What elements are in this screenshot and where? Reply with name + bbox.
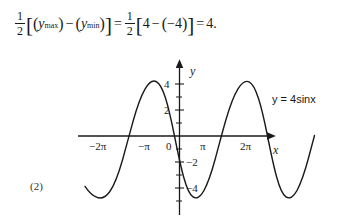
y-tick-label-minus-4: −4 — [186, 182, 198, 194]
fraction-one-half-first: 1 2 — [15, 10, 25, 37]
amplitude-equation: 1 2 [ ( ymax ) − ( ymin ) ] = 1 2 [ 4 − … — [14, 10, 217, 37]
subscript-max: max — [45, 22, 59, 30]
fraction-denominator-2: 2 — [125, 24, 135, 37]
fraction-numerator: 1 — [15, 10, 25, 24]
curve-equation-label: y = 4sinx — [272, 93, 316, 105]
fraction-one-half-second: 1 2 — [125, 10, 135, 37]
x-axis-label: x — [273, 143, 278, 158]
y-tick-label-2: 2 — [164, 104, 170, 116]
y-axis-label: y — [190, 64, 195, 79]
minus-operator-2: − — [152, 17, 160, 31]
value-min: −4 — [167, 17, 182, 31]
paren-open-min: ( — [76, 16, 81, 32]
x-tick-label-pi: π — [200, 140, 206, 152]
equals-sign-first: = — [114, 17, 122, 31]
equals-sign-second: = — [196, 17, 204, 31]
equation-result: 4. — [206, 17, 217, 31]
step-number-label: (2) — [30, 180, 43, 192]
x-tick-label-minus-pi: −π — [138, 140, 150, 152]
x-tick-label-zero: 0 — [166, 140, 172, 152]
x-tick-label-minus-2pi: −2π — [89, 140, 106, 152]
paren-open-max: ( — [33, 16, 38, 32]
figure-page: 1 2 [ ( ymax ) − ( ymin ) ] = 1 2 [ 4 − … — [0, 0, 343, 223]
y-tick-label-4: 4 — [164, 78, 170, 90]
sine-graph-svg — [0, 55, 343, 223]
paren-close-max: ) — [58, 16, 63, 32]
x-tick-label-2pi: 2π — [240, 140, 251, 152]
fraction-denominator: 2 — [15, 24, 25, 37]
value-max: 4 — [143, 17, 150, 31]
paren-open-value: ( — [162, 16, 167, 32]
subscript-min: min — [87, 22, 99, 30]
y-tick-label-minus-2: −2 — [186, 156, 198, 168]
fraction-numerator-2: 1 — [125, 10, 135, 24]
minus-operator: − — [66, 17, 74, 31]
sine-graph-figure: −2π −π 0 π 2π 4 2 −2 −4 y x — [0, 55, 343, 223]
